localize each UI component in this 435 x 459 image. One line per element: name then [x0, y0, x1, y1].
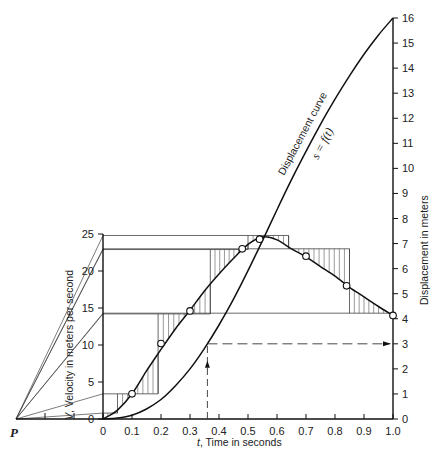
displacement-tick-label: 15	[402, 37, 414, 49]
velocity-data-point	[129, 391, 136, 398]
displacement-axis-title: Displacement in meters	[418, 195, 430, 305]
velocity-tick-label: 5	[88, 376, 94, 388]
x-tick-label: 0	[100, 425, 106, 437]
velocity-data-point	[158, 340, 165, 347]
velocity-axis-title: V, Velocity in meters per second	[63, 270, 75, 420]
displacement-tick-label: 7	[402, 238, 408, 250]
displacement-tick-label: 11	[402, 137, 413, 149]
x-axis-title: t, Time in seconds	[197, 436, 282, 448]
velocity-data-point	[303, 253, 310, 260]
velocity-displacement-diagram: 00.10.20.30.40.50.60.70.80.91.0051015202…	[0, 0, 435, 459]
displacement-tick-label: 3	[402, 338, 408, 350]
displacement-tick-label: 0	[402, 413, 408, 425]
displacement-tick-label: 8	[402, 213, 408, 225]
displacement-tick-label: 6	[402, 263, 408, 275]
x-tick-label: 0.7	[298, 425, 313, 437]
x-tick-label: 0.9	[356, 425, 371, 437]
axes: 00.10.20.30.40.50.60.70.80.91.0051015202…	[16, 12, 414, 437]
x-axis-text: , Time in seconds	[200, 436, 282, 448]
velocity-tick-label: 15	[82, 302, 94, 314]
readout-guide	[205, 341, 391, 419]
displacement-tick-label: 13	[402, 87, 414, 99]
pole-ray	[16, 235, 103, 419]
displacement-tick-label: 10	[402, 162, 414, 174]
displacement-tick-label: 5	[402, 288, 408, 300]
x-tick-label: 1.0	[385, 425, 400, 437]
x-tick-label: 0.3	[182, 425, 197, 437]
displacement-tick-label: 12	[402, 112, 414, 124]
velocity-axis-text: , Velocity in meters per second	[63, 270, 75, 413]
velocity-data-point	[390, 312, 397, 319]
velocity-tick-label: 25	[82, 228, 94, 240]
velocity-tick-label: 0	[88, 413, 94, 425]
velocity-tick-label: 10	[82, 339, 94, 351]
velocity-data-point	[239, 246, 246, 253]
arrow-right-icon	[383, 341, 391, 346]
pole-rays	[16, 235, 103, 419]
x-tick-label: 0.1	[124, 425, 139, 437]
pole-label: P	[10, 425, 19, 440]
displacement-tick-label: 2	[402, 363, 408, 375]
displacement-tick-label: 14	[402, 62, 414, 74]
x-tick-label: 0.8	[327, 425, 342, 437]
velocity-data-point	[187, 308, 194, 315]
displacement-tick-label: 4	[402, 313, 408, 325]
velocity-data-point	[343, 283, 350, 290]
arrow-up-icon	[205, 361, 210, 368]
curves	[103, 18, 393, 419]
velocity-data-point	[256, 236, 263, 243]
displacement-tick-label: 16	[402, 12, 414, 24]
velocity-tick-label: 20	[82, 265, 94, 277]
curve-equation-annotation: s = f(t)	[308, 125, 336, 161]
displacement-curve	[103, 18, 393, 419]
x-tick-label: 0.2	[153, 425, 168, 437]
step-approximation	[103, 235, 393, 419]
pole-ray	[16, 313, 103, 419]
displacement-tick-label: 9	[402, 187, 408, 199]
displacement-tick-label: 1	[402, 388, 408, 400]
